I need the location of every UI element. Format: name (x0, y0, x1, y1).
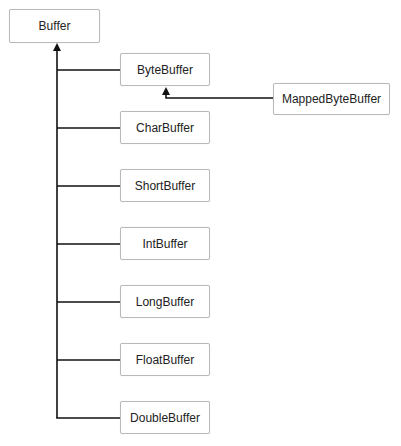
class-label: ByteBuffer (137, 63, 193, 77)
class-box-shortbuffer: ShortBuffer (120, 169, 210, 202)
class-label: IntBuffer (142, 237, 187, 251)
class-box-bytebuffer: ByteBuffer (120, 53, 210, 86)
class-box-buffer: Buffer (9, 9, 100, 43)
class-box-mappedbytebuffer: MappedByteBuffer (273, 83, 390, 115)
class-label: DoubleBuffer (130, 411, 200, 425)
class-label: FloatBuffer (136, 353, 194, 367)
class-label: LongBuffer (136, 295, 195, 309)
class-box-intbuffer: IntBuffer (120, 227, 210, 260)
class-box-charbuffer: CharBuffer (120, 111, 210, 144)
class-box-longbuffer: LongBuffer (120, 285, 210, 318)
class-label: ShortBuffer (135, 179, 195, 193)
class-label: CharBuffer (136, 121, 194, 135)
class-box-floatbuffer: FloatBuffer (120, 343, 210, 376)
class-label: Buffer (39, 19, 71, 33)
class-label: MappedByteBuffer (282, 92, 381, 106)
class-box-doublebuffer: DoubleBuffer (120, 401, 210, 434)
